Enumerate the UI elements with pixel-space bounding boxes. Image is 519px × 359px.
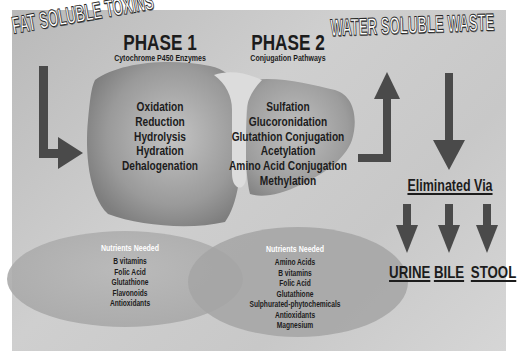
nutrient-item: Folic Acid bbox=[240, 278, 349, 289]
nutrient-item: Sulphurated-phytochemicals bbox=[240, 299, 349, 310]
phase2-nutrients-title: Nutrients Needed bbox=[256, 245, 334, 254]
phase1-title: PHASE 1 bbox=[113, 32, 207, 54]
phase2-nutrients-list: Amino Acids B vitamins Folic Acid Glutat… bbox=[240, 257, 349, 331]
phase1-item: Reduction bbox=[105, 115, 214, 130]
output-arrow-icon bbox=[358, 72, 400, 162]
nutrient-item: Antioxidants bbox=[240, 310, 349, 321]
phase2-item: Acetylation bbox=[218, 144, 358, 159]
phase2-reactions: Sulfation Glucoronidation Glutathion Con… bbox=[218, 100, 358, 189]
stool-arrow-icon bbox=[476, 204, 498, 253]
route-urine: URINE bbox=[389, 264, 425, 281]
water-soluble-waste-title: WATER SOLUBLE WASTE bbox=[330, 10, 495, 40]
phase2-subtitle: Conjugation Pathways bbox=[233, 54, 342, 63]
bile-arrow-icon bbox=[438, 204, 460, 253]
nutrient-item: Amino Acids bbox=[240, 257, 349, 268]
down-arrow-icon bbox=[433, 73, 465, 170]
phase2-item: Amino Acid Conjugation bbox=[218, 159, 358, 174]
phase2-item: Sulfation bbox=[218, 100, 358, 115]
nutrient-item: Folic Acid bbox=[91, 267, 169, 278]
nutrient-item: Antioxidants bbox=[91, 298, 169, 309]
phase2-item: Methylation bbox=[218, 174, 358, 189]
phase1-nutrients-title: Nutrients Needed bbox=[91, 244, 169, 253]
nutrient-item: Glutathione bbox=[240, 289, 349, 300]
nutrient-item: Magnesium bbox=[240, 320, 349, 331]
urine-arrow-icon bbox=[396, 204, 418, 253]
phase2-item: Glutathion Conjugation bbox=[218, 130, 358, 145]
nutrient-item: Flavonoids bbox=[91, 288, 169, 299]
eliminated-via-title: Eliminated Via bbox=[407, 178, 493, 194]
route-bile: BILE bbox=[433, 264, 464, 281]
nutrient-item: B vitamins bbox=[91, 256, 169, 267]
nutrient-item: B vitamins bbox=[240, 268, 349, 279]
phase1-reactions: Oxidation Reduction Hydrolysis Hydration… bbox=[105, 100, 214, 174]
phase1-item: Hydration bbox=[105, 144, 214, 159]
phase2-item: Glucoronidation bbox=[218, 115, 358, 130]
nutrient-item: Glutathione bbox=[91, 277, 169, 288]
phase1-item: Dehalogenation bbox=[105, 159, 214, 174]
phase1-nutrients-list: B vitamins Folic Acid Glutathione Flavon… bbox=[91, 256, 169, 309]
route-stool: STOOL bbox=[471, 264, 505, 281]
phase1-subtitle: Cytochrome P450 Enzymes bbox=[105, 54, 214, 63]
phase2-title: PHASE 2 bbox=[241, 32, 335, 54]
input-arrow-icon bbox=[39, 66, 83, 169]
phase1-item: Hydrolysis bbox=[105, 130, 214, 145]
phase1-item: Oxidation bbox=[105, 100, 214, 115]
